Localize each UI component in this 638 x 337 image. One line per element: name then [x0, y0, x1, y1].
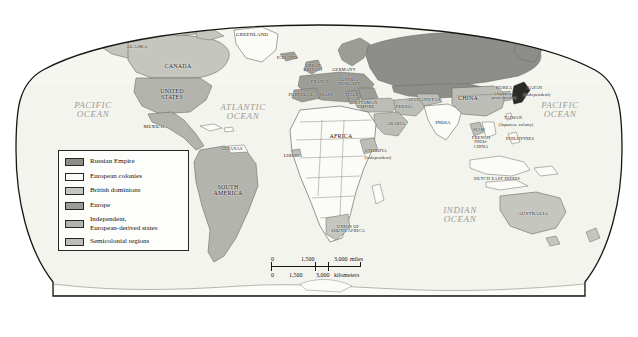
legend-item: Russian Empire: [65, 156, 183, 169]
legend-label: Europe: [90, 200, 110, 210]
scale-tick-mid-km: [328, 262, 329, 271]
region-caribbean-2: [224, 127, 234, 132]
region-korea: [503, 91, 511, 101]
scale-miles-tick-1: 1,500: [301, 256, 315, 262]
scale-km-tick-0: 0: [271, 272, 274, 278]
legend-label: European colonies: [90, 171, 142, 181]
scale-line: [271, 266, 361, 267]
legend-item: British dominions: [65, 185, 183, 198]
scale-km-tick-2: 3,000: [316, 272, 330, 278]
scale-km-unit: kilometers: [334, 272, 359, 278]
legend-swatch: [65, 238, 84, 246]
legend-label: British dominions: [90, 185, 140, 195]
legend-item: European colonies: [65, 171, 183, 184]
legend-item: Independent,European-derived states: [65, 214, 183, 234]
map-figure: ALASKACANADAUNITEDSTATESMEXICOGREENLANDI…: [0, 0, 638, 337]
region-canada: [128, 35, 229, 78]
legend-item: Semicolonial regions: [65, 236, 183, 249]
legend-label: Semicolonial regions: [90, 236, 149, 246]
scale-tick-mid-miles: [315, 262, 316, 271]
scale-miles-unit: miles: [350, 256, 363, 262]
scale-tick-start: [271, 262, 272, 271]
region-ottoman-empire: [356, 98, 400, 112]
legend-label: Russian Empire: [90, 156, 135, 166]
scale-km-tick-1: 1,500: [289, 272, 303, 278]
scale-miles-tick-2: 3,000: [334, 256, 348, 262]
legend-swatch: [65, 220, 84, 228]
legend-swatch: [65, 202, 84, 210]
scale-bar: 0 1,500 3,000 miles 0 1,500 3,000 kilome…: [271, 256, 367, 286]
legend-item: Europe: [65, 200, 183, 213]
legend-label: Independent,European-derived states: [90, 214, 157, 232]
map-legend: Russian EmpireEuropean coloniesBritish d…: [58, 150, 189, 251]
legend-swatch: [65, 173, 84, 181]
scale-tick-end: [360, 262, 361, 267]
region-taiwan: [506, 113, 512, 120]
legend-swatch: [65, 187, 84, 195]
legend-swatch: [65, 158, 84, 166]
region-liberia: [292, 149, 301, 156]
